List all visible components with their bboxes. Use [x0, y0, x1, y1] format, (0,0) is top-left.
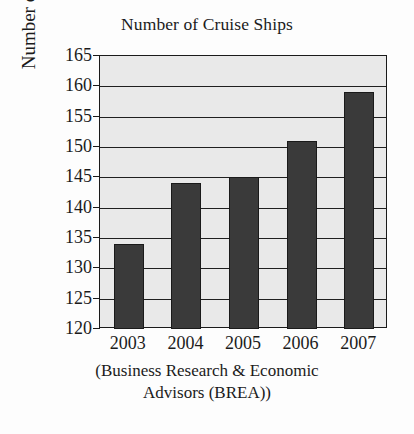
- y-tick-label-140: 140: [50, 198, 92, 216]
- caption-line-1: (Business Research & Economic: [0, 360, 414, 382]
- x-tick-label-2005: 2005: [214, 333, 272, 354]
- x-tick-label-2007: 2007: [329, 333, 387, 354]
- y-tick-label-125: 125: [50, 289, 92, 307]
- bar-2007: [344, 92, 374, 329]
- y-tick-mark-120: [93, 328, 100, 329]
- x-axis-tick-labels: 20032004200520062007: [99, 333, 387, 359]
- y-tick-label-155: 155: [50, 107, 92, 125]
- gridline-155: [100, 117, 386, 118]
- bar-2003: [114, 244, 144, 329]
- y-tick-label-165: 165: [50, 46, 92, 64]
- x-tick-label-2006: 2006: [272, 333, 330, 354]
- y-tick-label-160: 160: [50, 76, 92, 94]
- gridline-160: [100, 86, 386, 87]
- y-tick-label-145: 145: [50, 167, 92, 185]
- plot-area: [99, 55, 387, 328]
- chart-title: Number of Cruise Ships: [0, 14, 414, 35]
- chart-figure: Number of Cruise Ships Number of ships 1…: [0, 0, 414, 434]
- y-tick-label-150: 150: [50, 137, 92, 155]
- y-axis-label: Number of ships: [18, 0, 44, 111]
- y-tick-label-130: 130: [50, 258, 92, 276]
- chart-caption: (Business Research & Economic Advisors (…: [0, 360, 414, 405]
- y-tick-label-120: 120: [50, 319, 92, 337]
- bar-2006: [287, 141, 317, 329]
- bar-2005: [229, 177, 259, 329]
- gridline-150: [100, 147, 386, 148]
- x-tick-label-2004: 2004: [157, 333, 215, 354]
- bar-2004: [171, 183, 201, 329]
- y-tick-label-135: 135: [50, 228, 92, 246]
- caption-line-2: Advisors (BREA)): [0, 382, 414, 404]
- x-tick-label-2003: 2003: [99, 333, 157, 354]
